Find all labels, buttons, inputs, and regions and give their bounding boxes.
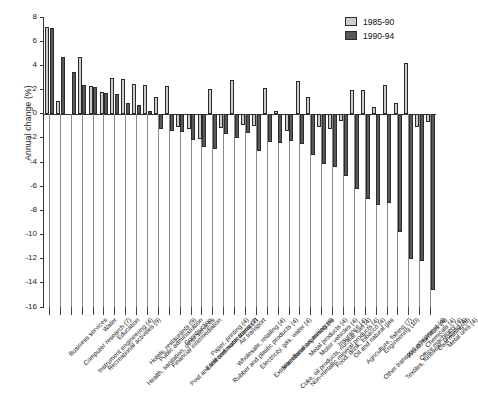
x-axis-tick [71, 307, 72, 315]
category-dropline [114, 114, 115, 307]
bar [300, 114, 304, 144]
bar [339, 114, 343, 121]
category-dropline [93, 114, 94, 307]
x-axis-tick [223, 307, 224, 315]
bar [241, 114, 245, 125]
category-dropline [158, 114, 159, 307]
bar [224, 114, 228, 134]
x-axis-label: Recreational activities (9) [106, 316, 162, 372]
bar [191, 114, 195, 140]
x-axis-tick [245, 307, 246, 315]
bar [100, 92, 104, 114]
category-dropline [267, 114, 268, 307]
x-axis-tick [387, 307, 388, 315]
x-axis-label: Post and telecommunications (7) [189, 316, 260, 387]
y-axis-tick-label: 8 [33, 12, 37, 21]
chart-legend: 1985-90 1990-94 [345, 16, 394, 44]
x-axis-tick [147, 307, 148, 315]
bar [202, 114, 206, 147]
y-axis-tick-label: -6 [30, 181, 37, 190]
bar [213, 114, 217, 149]
x-axis-label: Land and water transport [204, 316, 259, 371]
x-axis-label: Air transport [237, 316, 267, 346]
y-axis-tick-label: -12 [25, 253, 37, 262]
x-axis-tick [310, 307, 311, 315]
x-axis-tick [212, 307, 213, 315]
bar [82, 85, 86, 114]
category-dropline [191, 114, 192, 307]
x-axis-label: Rubber and plastic products (4) [231, 316, 299, 384]
bar [137, 105, 141, 114]
x-axis-tick [180, 307, 181, 315]
x-axis-tick [321, 307, 322, 315]
bar [56, 101, 60, 114]
category-dropline [60, 114, 61, 307]
bar [246, 114, 250, 133]
bar [306, 97, 310, 114]
bar [350, 90, 354, 114]
x-axis-label: Agriculture, fishing (7) [365, 316, 414, 365]
x-axis-label: Office machinery (4) [418, 316, 464, 362]
x-axis-label: Hotels, restaurants (9) [147, 316, 197, 366]
bar [208, 89, 212, 114]
x-axis-tick [169, 307, 170, 315]
x-axis-tick [278, 307, 279, 315]
bar [121, 79, 125, 114]
category-dropline [82, 114, 83, 307]
y-axis-tick-label: -8 [30, 205, 37, 214]
x-axis-tick [299, 307, 300, 315]
x-axis-tick [103, 307, 104, 315]
x-axis-tick [289, 307, 290, 315]
legend-item: 1990-94 [345, 30, 394, 41]
bar [278, 114, 282, 144]
bar [165, 86, 169, 114]
bar [148, 111, 152, 113]
bar [89, 86, 93, 113]
x-axis-label: Insurance (4) [336, 316, 368, 348]
bar [104, 93, 108, 114]
x-axis-label: Miscellaneous mining (6) [280, 316, 335, 371]
legend-label: 1985-90 [363, 17, 394, 27]
legend-label: 1990-94 [363, 31, 394, 41]
bar [180, 114, 184, 132]
bar [311, 114, 315, 156]
bar [268, 114, 272, 142]
bar [257, 114, 261, 151]
bar [50, 28, 54, 114]
x-axis-tick [114, 307, 115, 315]
bar [322, 114, 326, 165]
bar [289, 114, 293, 142]
x-axis-label: Coke, oil products, nuclear fuel (4) [299, 316, 373, 390]
x-axis-ticks [44, 307, 436, 316]
bar [328, 114, 332, 130]
bar [72, 72, 76, 114]
bar [126, 103, 130, 114]
bar [143, 85, 147, 114]
y-axis-tick-label: 0 [33, 108, 37, 117]
bar [132, 84, 136, 114]
x-axis-label: Motor vehicles (4) [318, 316, 359, 357]
bar [263, 88, 267, 113]
category-dropline [125, 114, 126, 307]
bar [219, 114, 223, 129]
x-axis-label: Financial intermediation [170, 316, 223, 369]
bar [317, 114, 321, 127]
x-axis-label: Metal ores (4) [445, 316, 478, 349]
x-axis-label: Electricity, gas, water (4) [258, 316, 312, 370]
bar [187, 114, 191, 130]
x-axis-label: Other transport equipment (4) [382, 316, 446, 380]
category-dropline [234, 114, 235, 307]
bar [355, 114, 359, 189]
bar [159, 114, 163, 130]
bar [230, 80, 234, 113]
x-axis-label: Water [101, 316, 118, 333]
x-axis-label: Engineering (10) [382, 316, 420, 354]
x-axis-tick [93, 307, 94, 315]
legend-swatch-1985-90 [345, 17, 357, 26]
x-axis-label: Wholesale, retailing (4) [235, 316, 286, 367]
bar [45, 27, 49, 114]
y-axis-tick-label: -4 [30, 157, 37, 166]
x-axis-label: Oil and natural gas [351, 316, 394, 359]
y-axis-tick-label: -14 [25, 277, 37, 286]
legend-item: 1985-90 [345, 16, 394, 27]
